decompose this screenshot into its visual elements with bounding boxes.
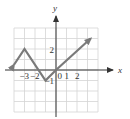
- y-tick-label: 2: [50, 45, 55, 55]
- x-tick-label: 0: [58, 71, 63, 81]
- coordinate-plane: x y −3−2012 2−1: [0, 0, 130, 119]
- x-tick-label: −3: [20, 71, 30, 81]
- x-axis-label: x: [117, 65, 122, 75]
- y-axis-label: y: [52, 3, 57, 13]
- x-tick-label: 2: [75, 71, 80, 81]
- x-tick-label: 1: [65, 71, 70, 81]
- x-tick-label: −2: [30, 71, 40, 81]
